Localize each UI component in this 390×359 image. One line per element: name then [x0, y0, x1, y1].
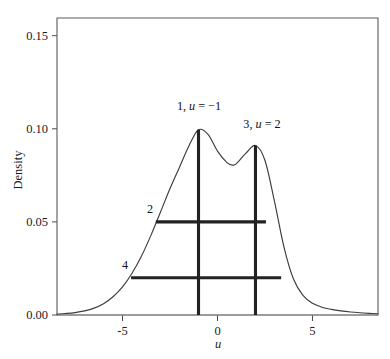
- y-axis-tick-labels: 0.000.050.100.15: [26, 29, 48, 322]
- annotation-label-1: 1, u = −1: [177, 99, 221, 113]
- annotation-label-2: 2: [147, 202, 153, 216]
- y-tick-label-2: 0.10: [26, 122, 48, 136]
- annotation-3-prefix: 3,: [243, 117, 255, 131]
- annotation-1-suffix: = −1: [195, 99, 221, 113]
- annotation-marker-lines: [131, 130, 281, 315]
- y-tick-label-3: 0.15: [26, 29, 48, 43]
- annotation-3-suffix: = 2: [262, 117, 281, 131]
- annotation-label-3: 3, u = 2: [243, 117, 280, 131]
- x-axis-title: u: [215, 337, 221, 351]
- density-plot-figure: 0.000.050.100.15 -505 Density u 1, u = −…: [0, 0, 390, 359]
- x-axis-ticks: [123, 315, 313, 321]
- plot-frame: [57, 18, 378, 315]
- y-tick-label-0: 0.00: [26, 308, 48, 322]
- x-axis-tick-labels: -505: [117, 324, 315, 338]
- x-tick-label-2: 5: [309, 324, 315, 338]
- y-axis-title: Density: [11, 150, 25, 190]
- annotation-1-prefix: 1,: [177, 99, 189, 113]
- x-tick-label-0: -5: [117, 324, 127, 338]
- x-tick-label-1: 0: [214, 324, 220, 338]
- y-axis-ticks: [52, 36, 57, 315]
- y-tick-label-1: 0.05: [26, 215, 48, 229]
- annotation-label-4: 4: [122, 258, 128, 272]
- plot-canvas: 0.000.050.100.15 -505 Density u 1, u = −…: [0, 0, 390, 359]
